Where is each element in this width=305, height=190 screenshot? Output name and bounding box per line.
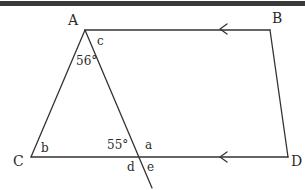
angle-label-e: e bbox=[147, 161, 154, 173]
parallel-mark-ab-icon bbox=[220, 24, 227, 34]
line-segment-BD bbox=[270, 30, 288, 157]
angle-label-56: 56° bbox=[76, 55, 97, 67]
vertex-label-A: A bbox=[68, 13, 78, 27]
vertex-label-B: B bbox=[272, 11, 282, 25]
angle-label-a: a bbox=[145, 139, 152, 151]
vertex-label-C: C bbox=[13, 154, 24, 168]
angle-label-b: b bbox=[41, 142, 49, 154]
diagram-canvas: A B C D 56° 55° c b a d e bbox=[0, 0, 305, 190]
angle-label-55: 55° bbox=[107, 139, 128, 151]
vertex-label-D: D bbox=[291, 154, 302, 168]
angle-label-c: c bbox=[97, 35, 104, 47]
line-segment-AC bbox=[31, 30, 85, 157]
angle-label-d: d bbox=[127, 161, 135, 173]
